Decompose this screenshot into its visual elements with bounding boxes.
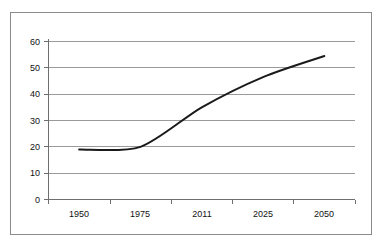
x-tick-label-2011: 2011 xyxy=(192,209,211,219)
y-tick-label-10: 10 xyxy=(22,168,40,178)
y-tick-label-30: 30 xyxy=(22,116,40,126)
y-tick-label-0: 0 xyxy=(22,195,40,205)
x-axis-ticks xyxy=(49,200,356,205)
x-tick-label-2050: 2050 xyxy=(314,209,334,219)
y-tick-label-50: 50 xyxy=(22,63,40,73)
chart-container: 60 50 40 30 20 10 0 1950 1975 2011 2025 … xyxy=(0,0,385,247)
data-series-line xyxy=(79,56,324,150)
y-tick-label-60: 60 xyxy=(22,37,40,47)
y-tick-label-20: 20 xyxy=(22,142,40,152)
x-tick-label-1975: 1975 xyxy=(130,209,150,219)
gridlines-horizontal xyxy=(49,42,356,200)
y-tick-label-40: 40 xyxy=(22,89,40,99)
x-tick-label-1950: 1950 xyxy=(69,209,89,219)
y-axis-ticks xyxy=(44,42,49,200)
x-tick-label-2025: 2025 xyxy=(253,209,273,219)
